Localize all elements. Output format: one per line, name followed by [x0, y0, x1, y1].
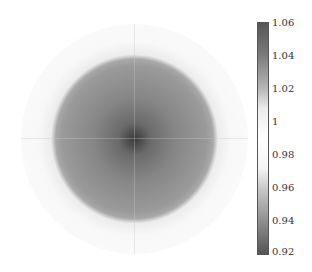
colorbar-tick-label: 1 [272, 117, 278, 127]
colorbar-tick-label: 0.96 [272, 183, 294, 193]
colorbar-tick-label: 1.04 [272, 51, 294, 61]
colorbar-tick-label: 0.94 [272, 216, 294, 226]
colorbar-tick-label: 0.98 [272, 150, 294, 160]
colorbar-tick-label: 1.02 [272, 84, 294, 94]
grid-line-vertical [134, 24, 135, 254]
colorbar-tick-label: 0.92 [272, 247, 294, 257]
colorbar [257, 22, 269, 255]
colorbar-tick-label: 1.06 [272, 18, 294, 28]
